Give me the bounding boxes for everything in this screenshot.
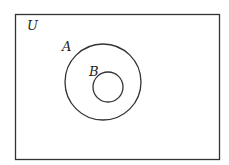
universe-rectangle: [16, 15, 220, 160]
universe-label: U: [27, 18, 39, 33]
venn-diagram: U A B: [0, 0, 229, 165]
set-b-label: B: [88, 64, 99, 79]
set-a-circle: [65, 44, 141, 120]
set-a-label: A: [61, 39, 71, 54]
